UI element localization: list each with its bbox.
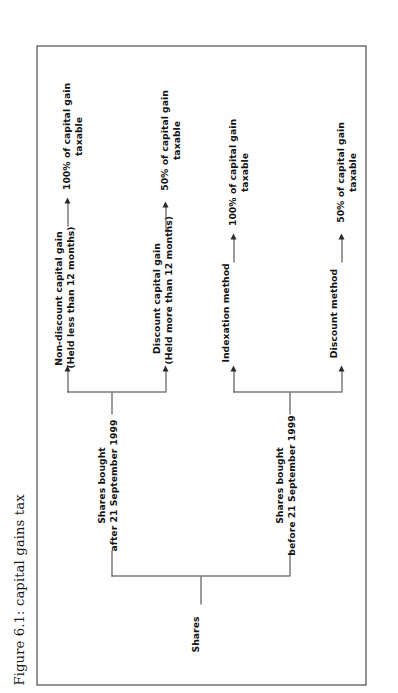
node-shares-after-1999-line2: after 21 September 1999 (107, 414, 119, 556)
node-non-discount-capital-gain: Non-discount capital gain (Held less tha… (52, 228, 75, 368)
arrowhead-indexation-outcome (230, 233, 236, 239)
node-discount-method-outcome-line2: taxable (346, 114, 358, 230)
connector-to-indexation-method (233, 370, 234, 392)
node-root-shares: Shares (189, 606, 201, 662)
node-non-discount-outcome-line2: taxable (72, 78, 84, 194)
node-discount-method-label: Discount method (327, 264, 339, 362)
node-indexation-method-label: Indexation method (219, 264, 231, 362)
connector-after-split (67, 391, 165, 392)
node-shares-after-1999: Shares bought after 21 September 1999 (95, 414, 118, 556)
node-non-discount-capital-gain-line1: Non-discount capital gain (52, 228, 64, 368)
arrowhead-discount-method (338, 365, 344, 371)
connector-to-discount-method (341, 370, 342, 392)
rotated-page-stage: Figure 6.1: capital gains tax Shares Sha… (0, 0, 398, 693)
node-discount-capital-gain-line1: Discount capital gain (150, 232, 162, 364)
node-discount-capital-gain-outcome-line1: 50% of capital gain (158, 82, 170, 198)
node-discount-method-outcome-line1: 50% of capital gain (334, 114, 346, 230)
connector-root-split (111, 575, 289, 576)
arrowhead-non-discount-outcome (64, 197, 70, 203)
figure-caption: Figure 6.1: capital gains tax (11, 494, 26, 685)
arrowhead-indexation-method (230, 365, 236, 371)
node-non-discount-outcome: 100% of capital gain taxable (60, 78, 83, 194)
connector-indexation-to-outcome (233, 238, 234, 262)
arrowhead-discount-method-outcome (338, 233, 344, 239)
node-non-discount-outcome-line1: 100% of capital gain (60, 78, 72, 194)
connector-to-non-discount-capital-gain (67, 370, 68, 392)
arrowhead-discount-capital-gain-outcome (162, 201, 168, 207)
connector-discount-method-to-outcome (341, 238, 342, 262)
connector-after-stub (111, 392, 112, 414)
connector-to-discount-capital-gain (165, 370, 166, 392)
node-root-shares-label: Shares (189, 606, 201, 662)
node-non-discount-capital-gain-line2: (Held less than 12 months) (64, 228, 76, 368)
node-discount-capital-gain-outcome-line2: taxable (170, 82, 182, 198)
node-discount-method: Discount method (327, 264, 339, 362)
node-shares-before-1999: Shares bought before 21 September 1999 (273, 414, 296, 556)
node-discount-capital-gain-line2: (Held more than 12 months) (162, 232, 174, 364)
connector-before-split (233, 391, 341, 392)
node-discount-capital-gain: Discount capital gain (Held more than 12… (150, 232, 173, 364)
connector-before-stub (289, 392, 290, 414)
arrowhead-discount-capital-gain (162, 365, 168, 371)
node-indexation-outcome-line2: taxable (238, 114, 250, 230)
node-discount-method-outcome: 50% of capital gain taxable (334, 114, 357, 230)
connector-discount-capital-gain-to-outcome (165, 206, 166, 230)
node-indexation-method: Indexation method (219, 264, 231, 362)
node-discount-capital-gain-outcome: 50% of capital gain taxable (158, 82, 181, 198)
connector-non-discount-to-outcome (67, 202, 68, 226)
node-indexation-outcome-line1: 100% of capital gain (226, 114, 238, 230)
node-shares-after-1999-line1: Shares bought (95, 414, 107, 556)
node-indexation-outcome: 100% of capital gain taxable (226, 114, 249, 230)
node-shares-before-1999-line1: Shares bought (273, 414, 285, 556)
node-shares-before-1999-line2: before 21 September 1999 (285, 414, 297, 556)
figure-frame: Shares Shares bought before 21 September… (36, 45, 366, 685)
connector-root-stub (200, 576, 201, 604)
